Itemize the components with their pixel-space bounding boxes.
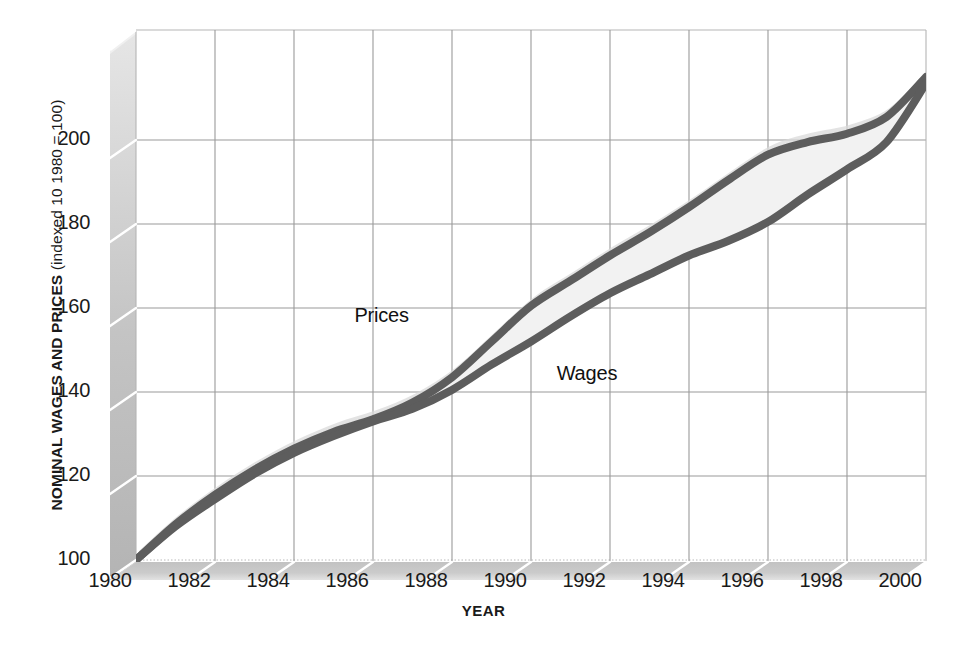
- y-tick-label-120: 120: [26, 463, 90, 486]
- x-tick-label-1984: 1984: [225, 569, 311, 592]
- x-tick-label-1992: 1992: [541, 569, 627, 592]
- x-tick-label-1980: 1980: [67, 569, 153, 592]
- x-tick-label-1986: 1986: [304, 569, 390, 592]
- series-label-wages: Wages: [557, 362, 618, 385]
- chart-container: NOMINAL WAGES AND PRICES (indexed 10 198…: [0, 0, 967, 651]
- y-tick-label-100: 100: [26, 547, 90, 570]
- series-label-prices: Prices: [354, 304, 408, 327]
- y-tick-label-140: 140: [26, 379, 90, 402]
- x-tick-label-1988: 1988: [383, 569, 469, 592]
- y-tick-label-160: 160: [26, 295, 90, 318]
- x-tick-label-1990: 1990: [462, 569, 548, 592]
- x-tick-label-1982: 1982: [146, 569, 232, 592]
- y-tick-label-180: 180: [26, 211, 90, 234]
- x-tick-label-2000: 2000: [857, 569, 943, 592]
- x-tick-label-1998: 1998: [778, 569, 864, 592]
- chart-plot-svg: [0, 0, 967, 651]
- x-tick-label-1994: 1994: [620, 569, 706, 592]
- axis-wall-left: [110, 30, 136, 580]
- x-tick-label-1996: 1996: [699, 569, 785, 592]
- y-tick-label-200: 200: [26, 127, 90, 150]
